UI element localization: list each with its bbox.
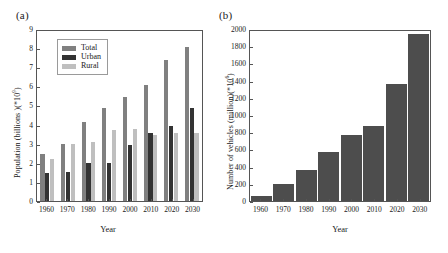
bar-total-2020 xyxy=(164,60,168,201)
x-tick-mark xyxy=(351,199,352,202)
y-tick-label: 200 xyxy=(215,181,246,189)
bar-urban-2020 xyxy=(169,126,173,201)
x-tick-mark xyxy=(88,199,89,202)
panel-b-label: (b) xyxy=(219,9,232,21)
x-tick-label: 2000 xyxy=(344,206,359,214)
y-tick-label: 0 xyxy=(215,198,246,206)
x-tick-mark xyxy=(283,199,284,202)
y-tick-label: 5 xyxy=(0,103,33,111)
panel-a-label: (a) xyxy=(16,9,29,21)
x-tick-label: 1980 xyxy=(81,206,96,214)
y-tick-label: 3 xyxy=(0,141,33,149)
x-tick-mark xyxy=(67,199,68,202)
y-tick-label: 1200 xyxy=(215,95,246,103)
bar-vehicles-1990 xyxy=(318,152,339,201)
x-tick-mark xyxy=(172,199,173,202)
y-tick-mark xyxy=(37,49,40,50)
y-tick-mark xyxy=(37,87,40,88)
y-tick-mark xyxy=(250,202,253,203)
x-tick-mark xyxy=(46,199,47,202)
y-tick-mark xyxy=(37,145,40,146)
panel-b-bars xyxy=(250,31,430,201)
y-tick-mark xyxy=(37,106,40,107)
x-tick-mark xyxy=(420,199,421,202)
bar-urban-2000 xyxy=(128,145,132,201)
y-tick-mark xyxy=(250,47,253,48)
panel-a-legend: Total Urban Rural xyxy=(57,39,108,75)
bar-rural-1970 xyxy=(71,144,75,201)
y-tick-label: 4 xyxy=(0,122,33,130)
legend-label-urban: Urban xyxy=(81,53,101,61)
x-tick-label: 1980 xyxy=(298,206,313,214)
panel-a-x-axis-title: Year xyxy=(100,224,116,234)
y-tick-label: 9 xyxy=(0,26,33,34)
x-tick-label: 1990 xyxy=(321,206,336,214)
bar-total-2030 xyxy=(185,47,189,201)
y-tick-mark xyxy=(37,202,40,203)
bar-rural-2000 xyxy=(133,129,137,201)
x-tick-label: 2010 xyxy=(367,206,382,214)
x-tick-label: 1960 xyxy=(253,206,268,214)
y-tick-label: 400 xyxy=(215,164,246,172)
legend-item-urban: Urban xyxy=(62,53,101,61)
legend-label-total: Total xyxy=(81,44,97,52)
bar-rural-1960 xyxy=(50,159,54,201)
panel-a-plot-area: Total Urban Rural xyxy=(36,30,203,202)
bar-total-2010 xyxy=(144,85,148,201)
y-tick-mark xyxy=(250,185,253,186)
y-tick-mark xyxy=(250,99,253,100)
y-tick-mark xyxy=(250,116,253,117)
x-tick-label: 1970 xyxy=(60,206,75,214)
y-tick-label: 1000 xyxy=(215,112,246,120)
x-tick-mark xyxy=(329,199,330,202)
figure-container: (a) Population (billions )(*109) Year To… xyxy=(0,0,448,253)
x-tick-label: 1970 xyxy=(276,206,291,214)
y-tick-label: 2000 xyxy=(215,26,246,34)
y-tick-mark xyxy=(37,164,40,165)
bar-urban-2030 xyxy=(190,108,194,201)
bar-vehicles-2010 xyxy=(363,126,384,201)
bar-total-1960 xyxy=(40,154,44,201)
bar-rural-1990 xyxy=(112,130,116,201)
bar-vehicles-1980 xyxy=(296,170,317,201)
bar-urban-2010 xyxy=(148,133,152,201)
x-tick-label: 2010 xyxy=(143,206,158,214)
x-tick-mark xyxy=(397,199,398,202)
y-tick-mark xyxy=(37,183,40,184)
bar-rural-1980 xyxy=(91,142,95,201)
x-tick-mark xyxy=(193,199,194,202)
bar-rural-2030 xyxy=(194,133,198,201)
x-tick-label: 1990 xyxy=(102,206,117,214)
legend-label-rural: Rural xyxy=(81,62,99,70)
y-tick-label: 800 xyxy=(215,129,246,137)
legend-swatch-rural xyxy=(62,64,76,69)
bar-urban-1980 xyxy=(86,163,90,201)
x-tick-label: 2000 xyxy=(122,206,137,214)
bar-vehicles-2000 xyxy=(341,135,362,201)
bar-urban-1960 xyxy=(45,173,49,201)
y-tick-label: 2 xyxy=(0,160,33,168)
y-tick-label: 1600 xyxy=(215,61,246,69)
bar-total-1970 xyxy=(61,144,65,201)
x-tick-mark xyxy=(109,199,110,202)
y-tick-label: 6 xyxy=(0,84,33,92)
bar-total-1990 xyxy=(102,108,106,202)
legend-swatch-total xyxy=(62,46,76,51)
y-tick-mark xyxy=(250,30,253,31)
bar-rural-2010 xyxy=(153,135,157,201)
y-tick-label: 1400 xyxy=(215,78,246,86)
x-tick-mark xyxy=(306,199,307,202)
y-tick-mark xyxy=(37,126,40,127)
panel-b-y-axis-title-tail: ) xyxy=(226,73,235,76)
y-tick-mark xyxy=(250,64,253,65)
bar-vehicles-2020 xyxy=(386,84,407,201)
y-tick-mark xyxy=(250,150,253,151)
panel-b: (b) Number of vehicles (million)(*106) Y… xyxy=(215,0,448,253)
panel-b-x-axis-title: Year xyxy=(332,224,348,234)
y-tick-label: 0 xyxy=(0,198,33,206)
x-tick-label: 2030 xyxy=(185,206,200,214)
legend-item-total: Total xyxy=(62,44,101,52)
bar-rural-2020 xyxy=(174,133,178,201)
legend-swatch-urban xyxy=(62,55,76,60)
y-tick-label: 8 xyxy=(0,45,33,53)
